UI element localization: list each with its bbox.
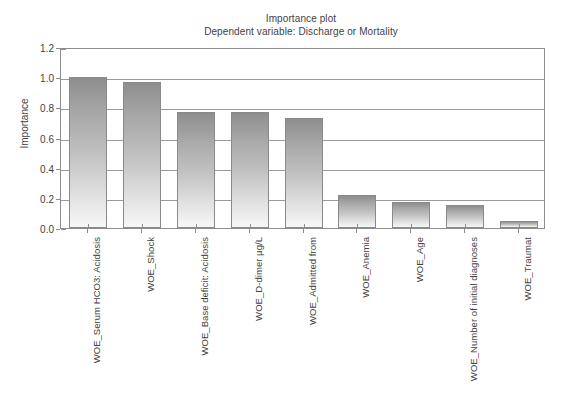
x-tick-mark bbox=[249, 229, 250, 233]
x-tick-mark bbox=[518, 229, 519, 233]
chart-subtitle: Dependent variable: Discharge or Mortali… bbox=[36, 25, 566, 38]
y-tick-mark bbox=[61, 49, 66, 50]
x-tick-mark bbox=[357, 224, 358, 228]
x-tick-label: WOE_Admitted from bbox=[307, 237, 318, 325]
bar bbox=[69, 77, 107, 228]
plot-area bbox=[60, 48, 545, 229]
y-tick-label: 1.0 bbox=[14, 73, 54, 84]
bar bbox=[177, 112, 215, 228]
y-tick-mark bbox=[56, 48, 60, 49]
y-tick-label: 0.0 bbox=[14, 224, 54, 235]
y-tick-mark bbox=[56, 169, 60, 170]
chart-title-block: Importance plot Dependent variable: Disc… bbox=[0, 12, 566, 38]
gridline bbox=[61, 79, 544, 80]
y-tick-label: 0.4 bbox=[14, 163, 54, 174]
x-tick-mark bbox=[87, 229, 88, 233]
x-tick-mark bbox=[464, 229, 465, 233]
x-tick-label: WOE_D-dimer µg/L bbox=[253, 237, 264, 321]
y-tick-label: 0.2 bbox=[14, 193, 54, 204]
x-tick-label: WOE_Age bbox=[414, 237, 425, 282]
bar bbox=[285, 118, 323, 228]
y-tick-mark bbox=[61, 229, 66, 230]
x-tick-label: WOE_Shock bbox=[145, 237, 156, 292]
y-axis-title: Importance bbox=[19, 79, 30, 169]
x-tick-label: WOE_Base deficit: Acidosis bbox=[199, 237, 210, 356]
y-tick-mark bbox=[56, 139, 60, 140]
x-tick-label: WOE_Anemia bbox=[360, 237, 371, 298]
x-tick-mark bbox=[250, 224, 251, 228]
bar bbox=[123, 82, 161, 228]
x-tick-mark bbox=[195, 229, 196, 233]
y-tick-label: 0.8 bbox=[14, 103, 54, 114]
x-tick-mark bbox=[356, 229, 357, 233]
x-tick-mark bbox=[304, 224, 305, 228]
page-title: Importance plot bbox=[36, 12, 566, 25]
y-tick-mark bbox=[56, 229, 60, 230]
x-tick-label: WOE_Traumat bbox=[522, 237, 533, 301]
y-tick-label: 0.6 bbox=[14, 133, 54, 144]
bar bbox=[231, 112, 269, 228]
importance-bar-chart: Importance plot Dependent variable: Disc… bbox=[0, 0, 566, 402]
y-tick-label: 1.2 bbox=[14, 43, 54, 54]
x-tick-mark bbox=[88, 224, 89, 228]
x-tick-mark bbox=[303, 229, 304, 233]
x-tick-mark bbox=[196, 224, 197, 228]
y-tick-mark bbox=[56, 108, 60, 109]
x-tick-mark bbox=[411, 224, 412, 228]
x-tick-mark bbox=[141, 229, 142, 233]
x-tick-label: WOE_Number of initial diagnoses bbox=[468, 237, 479, 381]
y-tick-mark bbox=[56, 78, 60, 79]
x-tick-label: WOE_Serum HCO3: Acidosis bbox=[91, 237, 102, 363]
x-tick-mark bbox=[519, 224, 520, 228]
x-tick-mark bbox=[142, 224, 143, 228]
y-tick-mark bbox=[56, 199, 60, 200]
x-tick-mark bbox=[410, 229, 411, 233]
x-tick-mark bbox=[465, 224, 466, 228]
